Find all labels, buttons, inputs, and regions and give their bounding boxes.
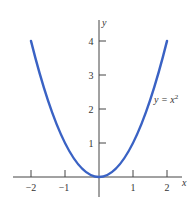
parabola-chart: −2 −1 1 2 x 4 3 2 1 y y = x2 <box>0 0 196 203</box>
y-axis-label: y <box>101 17 107 28</box>
y-tick-label: 4 <box>89 36 94 47</box>
x-axis-label: x <box>181 177 187 188</box>
y-ticks <box>99 41 106 143</box>
y-tick-label: 2 <box>89 104 94 115</box>
x-tick-label: −2 <box>26 182 37 193</box>
curve-label: y = x2 <box>153 93 179 105</box>
x-tick-label: −1 <box>59 182 70 193</box>
y-tick-label: 1 <box>89 138 94 149</box>
x-tick-label: 2 <box>165 182 170 193</box>
y-tick-label: 3 <box>89 70 94 81</box>
x-tick-label: 1 <box>131 182 136 193</box>
